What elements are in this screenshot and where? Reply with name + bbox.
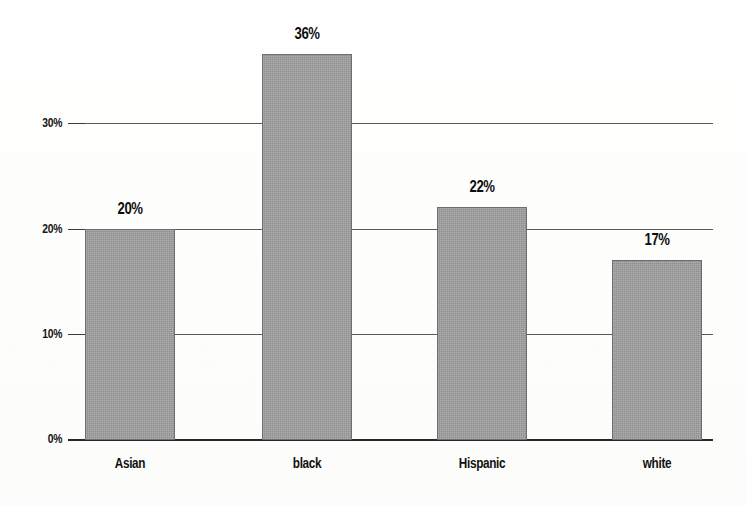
y-axis-label-20: 20%	[9, 222, 62, 236]
y-tick-mark-10	[68, 334, 85, 335]
bar-asian[interactable]	[85, 229, 175, 440]
y-tick-mark-20	[68, 229, 85, 230]
data-label-black: 36%	[270, 25, 344, 43]
y-tick-mark-0	[68, 439, 85, 441]
x-axis-label-hispanic: Hispanic	[444, 455, 520, 471]
x-axis-label-black: black	[269, 455, 345, 471]
bar-white[interactable]	[612, 260, 702, 440]
x-axis-label-asian: Asian	[92, 455, 168, 471]
x-axis-label-white: white	[619, 455, 695, 471]
y-axis-label-10: 10%	[9, 327, 62, 341]
y-tick-mark-30	[68, 123, 85, 124]
bar-chart-plot-area: 30% 20% 10% 0% 20% 36% 22% 17% Asian bla…	[0, 0, 747, 506]
data-label-asian: 20%	[93, 200, 167, 218]
y-axis-label-0: 0%	[9, 432, 62, 446]
data-label-white: 17%	[620, 231, 694, 249]
y-axis-label-30: 30%	[9, 116, 62, 130]
bar-black[interactable]	[262, 54, 352, 440]
bar-hispanic[interactable]	[437, 207, 527, 440]
chart-page: 30% 20% 10% 0% 20% 36% 22% 17% Asian bla…	[0, 0, 747, 506]
gridline-30	[85, 123, 713, 124]
data-label-hispanic: 22%	[445, 178, 519, 196]
gridline-20	[85, 229, 713, 230]
